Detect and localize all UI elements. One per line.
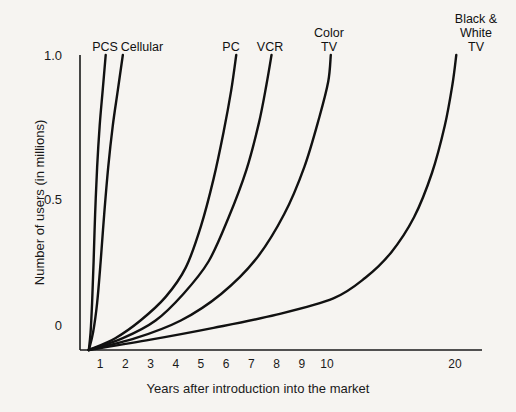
y-tick-label-1.0: 1.0 bbox=[14, 48, 62, 63]
x-tick-label-10: 10 bbox=[312, 357, 342, 371]
curve-black-white-tv bbox=[89, 55, 456, 350]
curve-label-cellular: Cellular bbox=[102, 40, 182, 54]
x-tick-label-20: 20 bbox=[440, 357, 470, 371]
x-axis-title: Years after introduction into the market bbox=[0, 381, 516, 396]
curve-label-color-tv: Color TV bbox=[289, 26, 369, 54]
plot-area bbox=[0, 0, 516, 412]
curve-cellular bbox=[89, 55, 123, 350]
y-tick-label-0: 0 bbox=[14, 318, 62, 333]
curve-color-tv bbox=[89, 55, 331, 350]
adoption-curve-chart: 1.0 0.5 0 Years after introduction into … bbox=[0, 0, 516, 412]
y-axis-title: Number of users (in millions) bbox=[32, 88, 47, 318]
curve-label-black-white-tv: Black & White TV bbox=[436, 12, 516, 54]
curve-pc bbox=[89, 55, 236, 350]
curve-group bbox=[89, 55, 456, 350]
